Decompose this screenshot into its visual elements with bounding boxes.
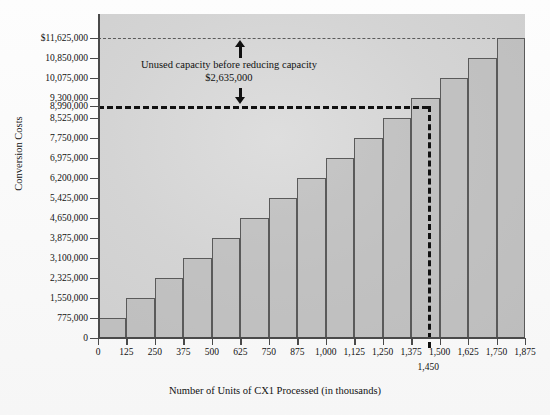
annotation-line-1: Unused capacity before reducing capacity <box>132 58 326 71</box>
x-axis-tick <box>440 338 441 345</box>
y-axis-tick-label: 1,550,000 <box>2 293 88 303</box>
y-axis-tick <box>90 298 98 299</box>
x-axis-tick-label: 1,250 <box>372 347 393 357</box>
x-axis-tick <box>468 338 469 345</box>
y-axis-tick <box>90 158 98 159</box>
x-axis-tick-label: 0 <box>96 347 101 357</box>
y-axis-tick <box>90 118 98 119</box>
x-axis-tick <box>497 338 498 345</box>
y-axis-tick <box>90 238 98 239</box>
y-axis-tick-label: 3,875,000 <box>2 233 88 243</box>
y-axis-tick <box>90 278 98 279</box>
y-axis-tick <box>90 258 98 259</box>
y-axis-tick-label: 3,100,000 <box>2 253 88 263</box>
x-axis-tick <box>525 338 526 345</box>
step-bar <box>240 218 268 338</box>
y-axis-tick-label: 0 <box>2 333 88 343</box>
y-axis-tick-label: 775,000 <box>2 313 88 323</box>
x-axis-tick-label: 1,000 <box>315 347 336 357</box>
y-axis-tick-label: $11,625,000 <box>2 33 88 43</box>
step-bar <box>383 118 411 338</box>
y-axis-tick-label: 10,075,000 <box>2 73 88 83</box>
x-axis-tick-label: 1,375 <box>400 347 421 357</box>
x-axis-tick-label: 750 <box>262 347 276 357</box>
step-bar <box>354 138 382 338</box>
y-axis-tick <box>90 318 98 319</box>
x-axis-tick <box>411 338 412 345</box>
x-axis-tick <box>212 338 213 345</box>
step-bar <box>497 38 525 338</box>
step-bar <box>269 198 297 338</box>
y-axis-line <box>98 14 100 338</box>
y-axis-tick <box>90 218 98 219</box>
step-bar <box>155 278 183 338</box>
x-axis-tick <box>155 338 156 345</box>
x-axis-tick-label: 250 <box>148 347 162 357</box>
x-axis-tick-label: 125 <box>119 347 133 357</box>
step-bar <box>297 178 325 338</box>
x-axis-tick-label: 1,750 <box>486 347 507 357</box>
x-axis-tick-label: 1,625 <box>457 347 478 357</box>
arrow-down-icon <box>233 88 247 104</box>
y-axis-tick <box>90 98 98 99</box>
x-axis-tick <box>383 338 384 345</box>
step-bar <box>440 78 468 338</box>
y-axis-tick-label: 10,850,000 <box>2 53 88 63</box>
conversion-costs-step-chart: 0775,0001,550,0002,325,0003,100,0003,875… <box>0 0 550 415</box>
x-axis-tick-label: 500 <box>205 347 219 357</box>
x-axis-tick <box>183 338 184 345</box>
x-axis-volume-label: 1,450 <box>418 362 439 372</box>
x-axis-tick-label: 875 <box>290 347 304 357</box>
y-axis-tick <box>90 106 98 107</box>
step-bar <box>411 98 439 338</box>
arrow-up-icon <box>233 40 247 58</box>
x-axis-tick <box>126 338 127 345</box>
y-axis-tick <box>90 58 98 59</box>
step-bar <box>98 318 126 338</box>
x-axis-title: Number of Units of CX1 Processed (in tho… <box>0 385 550 396</box>
volume-reference-line <box>428 106 431 348</box>
step-bar <box>212 238 240 338</box>
x-axis-tick-label: 375 <box>176 347 190 357</box>
step-bar <box>126 298 154 338</box>
used-capacity-reference-line <box>98 106 428 109</box>
x-axis-tick <box>98 338 99 345</box>
x-axis-tick <box>269 338 270 345</box>
y-axis-tick <box>90 138 98 139</box>
unused-capacity-annotation: Unused capacity before reducing capacity… <box>132 58 326 84</box>
y-axis-tick <box>90 38 98 39</box>
x-axis-tick <box>240 338 241 345</box>
y-axis-tick <box>90 78 98 79</box>
y-axis-tick <box>90 178 98 179</box>
x-axis-tick-label: 1,500 <box>429 347 450 357</box>
annotation-line-2: $2,635,000 <box>132 71 326 84</box>
y-axis-tick <box>90 338 98 339</box>
x-axis-line <box>98 337 525 339</box>
y-axis-tick-label: 2,325,000 <box>2 273 88 283</box>
x-axis-tick-label: 1,875 <box>514 347 535 357</box>
x-axis-tick <box>297 338 298 345</box>
x-axis-tick <box>354 338 355 345</box>
y-axis-tick <box>90 198 98 199</box>
step-bar <box>326 158 354 338</box>
step-bar <box>183 258 211 338</box>
x-axis-tick <box>326 338 327 345</box>
x-axis-tick-label: 625 <box>233 347 247 357</box>
x-axis-tick-label: 1,125 <box>344 347 365 357</box>
step-bar <box>468 58 496 338</box>
y-axis-tick-label: 4,650,000 <box>2 213 88 223</box>
capacity-reference-line <box>98 38 525 39</box>
y-axis-title: Conversion Costs <box>13 94 24 214</box>
